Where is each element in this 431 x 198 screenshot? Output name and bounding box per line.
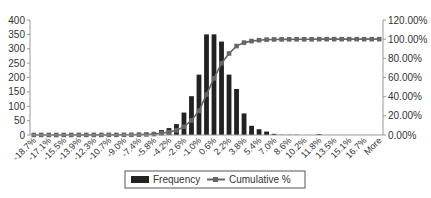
cumulative-marker — [362, 37, 367, 42]
histogram-chart: 050100150200250300350400 0.00%20.00%40.0… — [0, 0, 431, 198]
frequency-bar — [242, 113, 247, 135]
frequency-bar — [189, 96, 194, 135]
cumulative-marker — [309, 37, 314, 42]
y-left-tick-label: 200 — [8, 72, 25, 83]
cumulative-marker — [287, 37, 292, 42]
cumulative-marker — [324, 37, 329, 42]
y-left-tick-label: 300 — [8, 43, 25, 54]
cumulative-marker — [332, 37, 337, 42]
y-right-tick-label: 40.00% — [388, 91, 422, 102]
cumulative-marker — [339, 37, 344, 42]
cumulative-marker — [257, 38, 262, 43]
cumulative-marker — [249, 39, 254, 44]
cumulative-marker — [347, 37, 352, 42]
cumulative-marker — [264, 37, 269, 42]
x-axis: -18.7%-17.1%-15.5%-13.9%-12.3%-10.7%-9.0… — [11, 135, 384, 163]
frequency-bar — [204, 34, 209, 135]
cumulative-marker — [152, 132, 157, 137]
y-right-tick-label: 20.00% — [388, 110, 422, 121]
frequency-bar — [219, 42, 224, 135]
cumulative-marker — [369, 37, 374, 42]
cumulative-marker — [167, 130, 172, 135]
y-left-tick-label: 250 — [8, 58, 25, 69]
cumulative-marker — [174, 128, 179, 133]
frequency-bar — [197, 75, 202, 135]
y-left-tick-label: 0 — [19, 130, 25, 141]
y-right-tick-label: 80.00% — [388, 53, 422, 64]
y-left-tick-label: 50 — [14, 115, 26, 126]
frequency-bar — [249, 126, 254, 135]
frequency-bars — [31, 34, 321, 135]
cumulative-marker — [197, 108, 202, 113]
cumulative-marker — [144, 132, 149, 137]
cumulative-marker — [234, 44, 239, 49]
y-right-tick-label: 0.00% — [388, 130, 416, 141]
frequency-bar — [182, 113, 187, 135]
frequency-bar — [234, 89, 239, 135]
cumulative-marker — [302, 37, 307, 42]
legend-frequency-swatch — [131, 176, 149, 183]
cumulative-marker — [219, 61, 224, 66]
y-left-tick-label: 400 — [8, 15, 25, 26]
x-tick-label: More — [362, 135, 384, 157]
cumulative-marker — [272, 37, 277, 42]
cumulative-marker — [354, 37, 359, 42]
legend-cumulative-label: Cumulative % — [229, 174, 291, 185]
y-right-tick-label: 60.00% — [388, 72, 422, 83]
cumulative-marker — [242, 40, 247, 45]
cumulative-marker — [377, 37, 382, 42]
cumulative-marker — [212, 76, 217, 81]
frequency-bar — [264, 132, 269, 135]
y-axis-right: 0.00%20.00%40.00%60.00%80.00%100.00%120.… — [383, 15, 428, 141]
cumulative-marker — [279, 37, 284, 42]
cumulative-marker — [189, 118, 194, 123]
frequency-bar — [227, 75, 232, 135]
cumulative-marker — [294, 37, 299, 42]
legend-frequency-label: Frequency — [153, 174, 200, 185]
y-left-tick-label: 150 — [8, 86, 25, 97]
cumulative-marker — [204, 92, 209, 97]
legend: Frequency Cumulative % — [125, 171, 305, 188]
cumulative-marker — [227, 51, 232, 56]
legend-cumulative-marker-icon — [213, 177, 218, 182]
y-right-tick-label: 120.00% — [388, 15, 428, 26]
cumulative-marker — [317, 37, 322, 42]
y-axis-left: 050100150200250300350400 — [8, 15, 30, 141]
y-left-tick-label: 350 — [8, 29, 25, 40]
y-left-tick-label: 100 — [8, 101, 25, 112]
frequency-bar — [212, 34, 217, 135]
cumulative-marker — [182, 124, 187, 129]
frequency-bar — [257, 129, 262, 135]
y-right-tick-label: 100.00% — [388, 34, 428, 45]
